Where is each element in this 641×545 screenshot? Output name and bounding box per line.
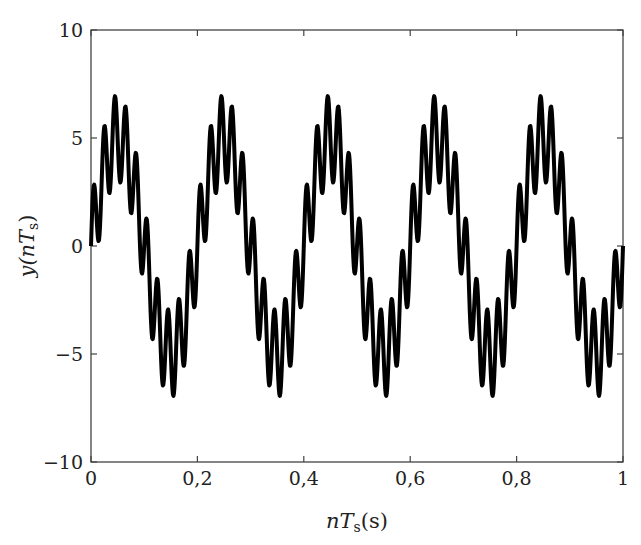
x-tick-label: 1 <box>617 467 629 489</box>
y-tick-label: 10 <box>59 19 83 41</box>
y-tick-label: 5 <box>71 127 83 149</box>
x-tick-label: 0,4 <box>289 467 319 489</box>
y-axis-ticks: −10−50510 <box>43 19 623 473</box>
x-tick-label: 0,2 <box>182 467 212 489</box>
x-tick-label: 0 <box>85 467 97 489</box>
signal-line <box>91 96 623 396</box>
y-tick-label: −10 <box>43 451 83 473</box>
x-tick-label: 0,8 <box>501 467 531 489</box>
chart: 00,20,40,60,81 −10−50510 nTs(s) y(nTs) <box>0 0 641 545</box>
y-tick-label: 0 <box>71 235 83 257</box>
y-axis-label: y(nTs) <box>15 215 41 279</box>
y-tick-label: −5 <box>55 343 83 365</box>
x-axis-label: nTs(s) <box>326 509 388 535</box>
x-tick-label: 0,6 <box>395 467 425 489</box>
